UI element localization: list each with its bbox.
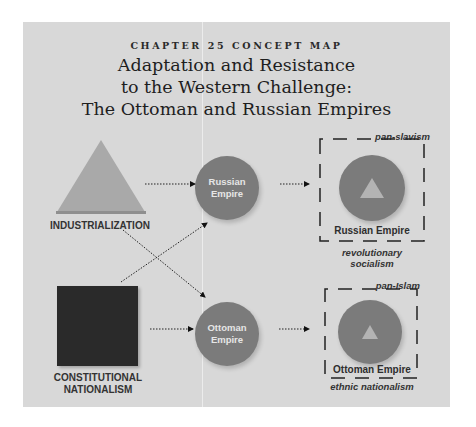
arrow-constitutional-to-russian [121, 223, 207, 282]
connector-overlay [0, 0, 476, 427]
russian-dashed-bracket [320, 139, 424, 241]
arrow-industrialization-to-ottoman [123, 230, 205, 297]
ottoman-dashed-bracket [325, 289, 417, 378]
